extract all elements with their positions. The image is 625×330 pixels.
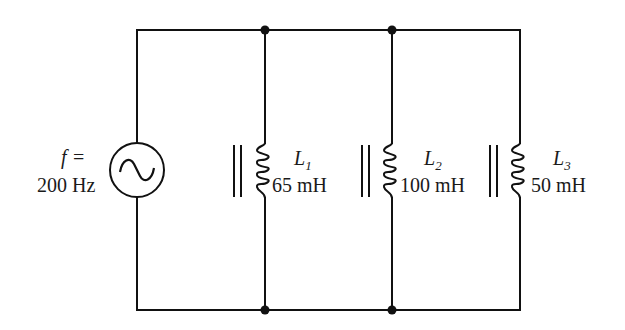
l2-value-label: 100 mH — [400, 174, 465, 196]
source-frequency-label: f = 200 Hz — [37, 146, 95, 196]
junction-dot — [261, 306, 270, 315]
junction-dot — [388, 26, 397, 35]
coil-icon — [384, 143, 396, 198]
ac-source — [110, 143, 164, 197]
l1-name-label: L1 — [293, 147, 312, 173]
inductor-l1 — [234, 143, 269, 198]
circuit-diagram: f = 200 Hz L1 65 mH L2 100 mH L3 50 mH — [0, 0, 625, 330]
junction-dot — [388, 306, 397, 315]
l3-name-label: L3 — [552, 147, 571, 173]
inductor-l2 — [362, 143, 396, 198]
coil-icon — [512, 143, 524, 198]
l2-name-label: L2 — [423, 147, 442, 173]
l1-value-label: 65 mH — [272, 174, 327, 196]
l3-value-label: 50 mH — [531, 174, 586, 196]
inductor-l3 — [490, 143, 524, 198]
junction-dot — [261, 26, 270, 35]
coil-icon — [257, 143, 269, 198]
